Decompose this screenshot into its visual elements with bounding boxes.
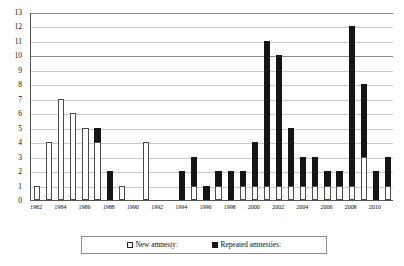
y-tick-label-9: 9 xyxy=(2,67,22,75)
y-tick-label-3: 3 xyxy=(2,154,22,162)
y-tick-label-6: 6 xyxy=(2,110,22,118)
plot-area xyxy=(30,13,393,201)
bar-2010 xyxy=(373,171,379,200)
bar-segment-new-amnesty-2003 xyxy=(288,186,294,200)
bar-1996 xyxy=(203,186,209,200)
legend-item-repeated-amnesties: Repeated amnesties: xyxy=(212,241,281,249)
bar-segment-repeated-amnesties-1998 xyxy=(228,171,234,200)
bar-2007 xyxy=(336,171,342,200)
bar-segment-repeated-amnesties-2011 xyxy=(385,157,391,186)
y-tick-label-1: 1 xyxy=(2,183,22,191)
bar-segment-new-amnesty-2005 xyxy=(312,186,318,200)
bar-1999 xyxy=(240,171,246,200)
bar-2005 xyxy=(312,157,318,200)
y-tick-label-5: 5 xyxy=(2,125,22,133)
bar-segment-repeated-amnesties-1999 xyxy=(240,171,246,185)
bar-segment-repeated-amnesties-1994 xyxy=(179,171,185,200)
legend-swatch-filled-square-icon xyxy=(212,242,218,248)
bar-1991 xyxy=(143,142,149,200)
bar-2003 xyxy=(288,128,294,200)
x-tick-label-1986: 1986 xyxy=(73,203,95,210)
y-tick-label-13: 13 xyxy=(2,9,22,17)
x-tick-label-2010: 2010 xyxy=(364,203,386,210)
x-tick-label-2002: 2002 xyxy=(267,203,289,210)
y-axis-tick-labels: 012345678910111213 xyxy=(0,0,28,266)
bar-segment-repeated-amnesties-1996 xyxy=(203,186,209,200)
y-tick-label-4: 4 xyxy=(2,139,22,147)
bar-segment-new-amnesty-2009 xyxy=(361,157,367,200)
bar-1987 xyxy=(94,128,100,200)
bar-segment-repeated-amnesties-2002 xyxy=(276,55,282,185)
bar-segment-new-amnesty-1987 xyxy=(94,142,100,200)
bar-segment-repeated-amnesties-2003 xyxy=(288,128,294,186)
bar-2008 xyxy=(349,26,355,200)
bar-segment-new-amnesty-1984 xyxy=(58,99,64,200)
bar-segment-repeated-amnesties-2004 xyxy=(300,157,306,186)
y-tick-label-7: 7 xyxy=(2,96,22,104)
bar-2000 xyxy=(252,142,258,200)
bar-segment-repeated-amnesties-1995 xyxy=(191,157,197,186)
bar-2009 xyxy=(361,84,367,200)
bar-segment-new-amnesty-1995 xyxy=(191,186,197,200)
x-tick-label-1984: 1984 xyxy=(49,203,71,210)
bar-segment-repeated-amnesties-2001 xyxy=(264,41,270,186)
bar-segment-new-amnesty-1983 xyxy=(46,142,52,200)
bar-segment-new-amnesty-2001 xyxy=(264,186,270,200)
bar-segment-repeated-amnesties-1987 xyxy=(94,128,100,142)
bar-segment-new-amnesty-1997 xyxy=(215,186,221,200)
x-tick-label-1982: 1982 xyxy=(25,203,47,210)
legend-label-repeated-amnesties: Repeated amnesties: xyxy=(220,241,281,249)
bar-1988 xyxy=(107,171,113,200)
bar-segment-new-amnesty-2000 xyxy=(252,186,258,200)
y-tick-label-2: 2 xyxy=(2,168,22,176)
bar-segment-new-amnesty-1985 xyxy=(70,113,76,200)
bar-segment-repeated-amnesties-2000 xyxy=(252,142,258,185)
legend-item-new-amnesty: New amnesty: xyxy=(127,241,178,249)
bar-1989 xyxy=(119,186,125,200)
chart-legend: New amnesty: Repeated amnesties: xyxy=(81,236,327,254)
bar-1984 xyxy=(58,99,64,200)
bar-1998 xyxy=(228,171,234,200)
x-tick-label-2000: 2000 xyxy=(243,203,265,210)
x-tick-label-1988: 1988 xyxy=(98,203,120,210)
bar-1982 xyxy=(34,186,40,200)
y-tick-label-12: 12 xyxy=(2,23,22,31)
bar-segment-repeated-amnesties-1988 xyxy=(107,171,113,200)
x-tick-label-1998: 1998 xyxy=(219,203,241,210)
bar-segment-new-amnesty-1991 xyxy=(143,142,149,200)
x-tick-label-1996: 1996 xyxy=(194,203,216,210)
bar-segment-repeated-amnesties-2005 xyxy=(312,157,318,186)
bar-series-container xyxy=(31,13,393,200)
bar-segment-new-amnesty-2002 xyxy=(276,186,282,200)
x-tick-label-2006: 2006 xyxy=(315,203,337,210)
bar-2011 xyxy=(385,157,391,200)
y-tick-label-10: 10 xyxy=(2,52,22,60)
x-tick-label-1994: 1994 xyxy=(170,203,192,210)
x-tick-label-1990: 1990 xyxy=(122,203,144,210)
bar-2006 xyxy=(324,171,330,200)
bar-1986 xyxy=(82,128,88,200)
bar-segment-repeated-amnesties-2010 xyxy=(373,171,379,200)
bar-2001 xyxy=(264,41,270,200)
x-axis-tick-labels: 1982198419861988199019921994199619982000… xyxy=(30,203,393,217)
bar-segment-repeated-amnesties-2007 xyxy=(336,171,342,185)
bar-2004 xyxy=(300,157,306,200)
bar-segment-new-amnesty-2007 xyxy=(336,186,342,200)
bar-segment-repeated-amnesties-1997 xyxy=(215,171,221,185)
x-tick-label-1992: 1992 xyxy=(146,203,168,210)
bar-segment-repeated-amnesties-2008 xyxy=(349,26,355,185)
bar-1994 xyxy=(179,171,185,200)
bar-segment-new-amnesty-1989 xyxy=(119,186,125,200)
bar-segment-new-amnesty-1999 xyxy=(240,186,246,200)
y-tick-label-0: 0 xyxy=(2,197,22,205)
legend-swatch-hollow-square-icon xyxy=(127,242,133,248)
bar-segment-new-amnesty-1982 xyxy=(34,186,40,200)
bar-segment-new-amnesty-2004 xyxy=(300,186,306,200)
x-tick-label-2004: 2004 xyxy=(291,203,313,210)
chart-figure: 012345678910111213 198219841986198819901… xyxy=(0,0,404,266)
bar-1997 xyxy=(215,171,221,200)
bar-1995 xyxy=(191,157,197,200)
x-tick-label-2008: 2008 xyxy=(340,203,362,210)
bar-segment-repeated-amnesties-2009 xyxy=(361,84,367,156)
bar-2002 xyxy=(276,55,282,200)
